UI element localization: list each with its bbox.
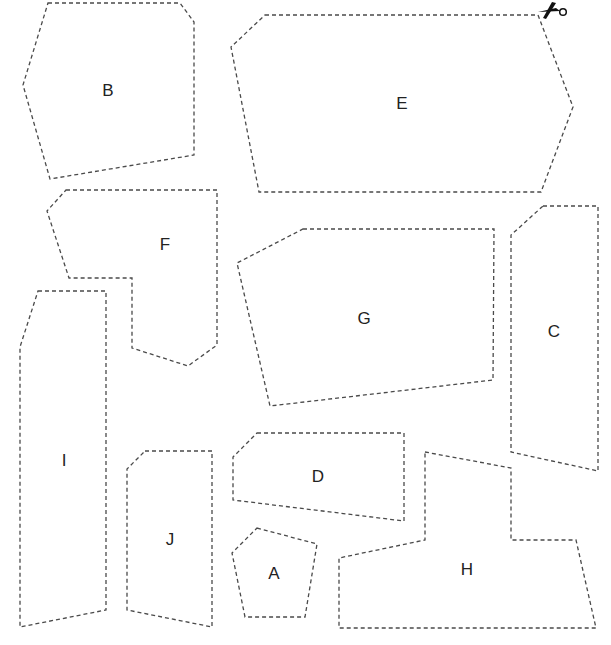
piece-label: I xyxy=(62,451,67,470)
piece-b[interactable]: B xyxy=(23,3,194,179)
piece-label: E xyxy=(396,94,407,113)
piece-label: D xyxy=(312,467,324,486)
piece-label: J xyxy=(166,530,175,549)
piece-label: B xyxy=(102,81,113,100)
piece-i[interactable]: I xyxy=(20,291,106,627)
piece-g[interactable]: G xyxy=(237,229,494,406)
scissors-icon xyxy=(538,2,566,19)
pieces-layer: BEFGCIDJAH xyxy=(20,3,598,628)
piece-c[interactable]: C xyxy=(511,206,598,471)
piece-d[interactable]: D xyxy=(233,433,404,521)
piece-e[interactable]: E xyxy=(231,15,573,192)
cutout-sheet: BEFGCIDJAH xyxy=(0,0,611,645)
piece-label: F xyxy=(160,235,170,254)
piece-label: G xyxy=(357,309,370,328)
piece-j[interactable]: J xyxy=(127,451,212,627)
piece-label: H xyxy=(461,560,473,579)
piece-label: C xyxy=(548,322,560,341)
piece-a[interactable]: A xyxy=(232,528,317,617)
piece-label: A xyxy=(268,564,280,583)
